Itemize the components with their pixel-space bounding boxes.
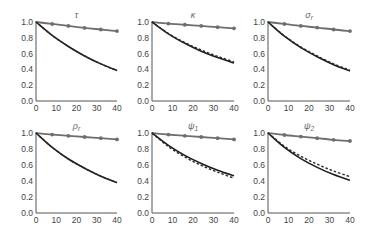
series-line-solid [152, 133, 234, 176]
x-tick-label: 20 [72, 215, 82, 225]
x-tick-label: 10 [52, 215, 62, 225]
series-marker [167, 22, 171, 26]
chart-title: κ [191, 10, 196, 20]
x-tick-label: 10 [168, 215, 178, 225]
series-marker [299, 135, 303, 139]
series-marker [83, 135, 87, 139]
series-marker [67, 134, 71, 138]
series-marker [167, 133, 171, 137]
x-tick-label: 30 [92, 103, 102, 113]
series-line-upper [36, 22, 117, 31]
x-tick-label: 20 [188, 215, 198, 225]
series-line-upper [36, 133, 117, 139]
chart-canvas: 0.00.20.40.60.81.0010203040τ0.00.20.40.6… [0, 0, 374, 241]
series-marker [332, 28, 336, 32]
series-line-dashed [36, 133, 117, 183]
y-tick-label: 0.8 [21, 33, 33, 43]
x-tick-label: 0 [34, 103, 39, 113]
y-tick-label: 0.4 [253, 176, 265, 186]
x-tick-label: 30 [325, 103, 335, 113]
series-marker [232, 138, 236, 142]
y-tick-label: 0.6 [21, 160, 33, 170]
series-marker [332, 138, 336, 142]
y-tick-label: 0.2 [253, 192, 265, 202]
x-tick-label: 20 [188, 103, 198, 113]
series-marker [83, 26, 87, 30]
x-tick-label: 0 [266, 215, 271, 225]
x-tick-label: 40 [112, 215, 122, 225]
series-marker [199, 24, 203, 28]
chart-title: ψ2 [304, 121, 315, 132]
series-line-upper [268, 22, 350, 31]
x-tick-label: 30 [92, 215, 102, 225]
series-line-upper [152, 22, 234, 28]
x-tick-label: 0 [150, 103, 155, 113]
x-tick-label: 40 [229, 215, 239, 225]
y-tick-label: 0.8 [253, 144, 265, 154]
x-tick-label: 40 [229, 103, 239, 113]
y-tick-label: 1.0 [253, 17, 265, 27]
y-tick-label: 1.0 [137, 128, 149, 138]
chart-panel-1: 0.00.20.40.60.81.0010203040τ [21, 10, 122, 113]
y-tick-label: 0.4 [137, 176, 149, 186]
y-tick-label: 0.0 [21, 208, 33, 218]
x-tick-label: 20 [304, 103, 314, 113]
chart-panel-3: 0.00.20.40.60.81.0010203040σr [253, 10, 355, 113]
x-tick-label: 40 [345, 215, 355, 225]
y-tick-label: 0.2 [21, 80, 33, 90]
y-tick-label: 0.2 [137, 80, 149, 90]
y-tick-label: 0.6 [137, 160, 149, 170]
x-tick-label: 30 [209, 103, 219, 113]
chart-panel-4: 0.00.20.40.60.81.0010203040ρr [21, 121, 122, 225]
y-tick-label: 0.0 [137, 96, 149, 106]
series-marker [348, 29, 352, 33]
chart-panel-6: 0.00.20.40.60.81.0010203040ψ2 [253, 121, 355, 225]
series-line-upper [152, 133, 234, 139]
series-marker [348, 139, 352, 143]
x-tick-label: 10 [284, 215, 294, 225]
series-line-solid [36, 133, 117, 183]
y-tick-label: 0.0 [137, 208, 149, 218]
series-marker [50, 22, 54, 26]
series-marker [216, 25, 220, 29]
y-tick-label: 0.6 [253, 160, 265, 170]
y-tick-label: 1.0 [253, 128, 265, 138]
x-tick-label: 10 [284, 103, 294, 113]
chart-title: ρr [72, 121, 81, 132]
x-tick-label: 0 [150, 215, 155, 225]
y-tick-label: 0.2 [253, 80, 265, 90]
y-tick-label: 0.4 [253, 64, 265, 74]
x-tick-label: 40 [345, 103, 355, 113]
series-marker [115, 138, 119, 142]
series-marker [99, 28, 103, 32]
x-tick-label: 30 [325, 215, 335, 225]
y-tick-label: 0.4 [137, 64, 149, 74]
series-marker [99, 136, 103, 140]
y-tick-label: 1.0 [137, 17, 149, 27]
y-tick-label: 0.8 [137, 33, 149, 43]
series-marker [315, 136, 319, 140]
series-marker [199, 135, 203, 139]
chart-panel-2: 0.00.20.40.60.81.0010203040κ [137, 10, 239, 113]
y-tick-label: 0.2 [137, 192, 149, 202]
y-tick-label: 1.0 [21, 17, 33, 27]
y-tick-label: 0.6 [21, 49, 33, 59]
series-marker [283, 133, 287, 137]
chart-title: τ [75, 10, 79, 20]
series-line-upper [268, 133, 350, 141]
x-tick-label: 0 [266, 103, 271, 113]
x-tick-label: 0 [34, 215, 39, 225]
series-marker [315, 26, 319, 30]
x-tick-label: 30 [209, 215, 219, 225]
y-tick-label: 0.2 [21, 192, 33, 202]
y-tick-label: 0.4 [21, 64, 33, 74]
y-tick-label: 1.0 [21, 128, 33, 138]
y-tick-label: 0.8 [253, 33, 265, 43]
series-marker [216, 136, 220, 140]
y-tick-label: 0.8 [21, 144, 33, 154]
series-marker [299, 24, 303, 28]
series-marker [67, 24, 71, 28]
x-tick-label: 20 [72, 103, 82, 113]
chart-panel-5: 0.00.20.40.60.81.0010203040ψ1 [137, 121, 239, 225]
y-tick-label: 0.8 [137, 144, 149, 154]
